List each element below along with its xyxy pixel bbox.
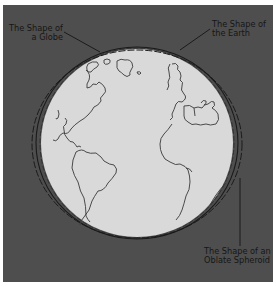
globe-leader-line bbox=[64, 32, 100, 52]
globe bbox=[41, 49, 233, 237]
globe-diagram bbox=[0, 0, 276, 287]
earth-label-line2: the Earth bbox=[212, 29, 276, 38]
earth-shape-label: The Shape of the Earth bbox=[212, 20, 276, 38]
spheroid-label-line2: Oblate Spheroid bbox=[204, 256, 276, 265]
globe-label-line2: a Globe bbox=[8, 33, 63, 42]
spheroid-shape-label: The Shape of an Oblate Spheroid bbox=[204, 247, 276, 265]
earth-leader-line bbox=[180, 29, 210, 50]
globe-shape-label: The Shape of a Globe bbox=[8, 24, 63, 42]
